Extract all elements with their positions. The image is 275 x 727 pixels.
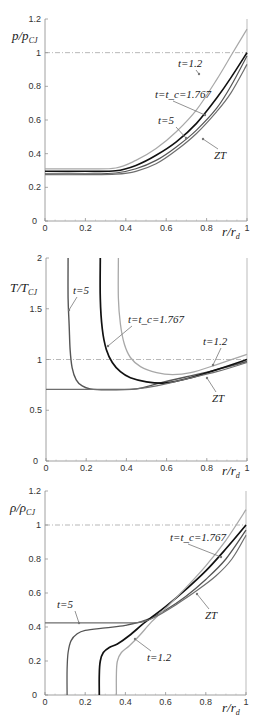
- annotation-label: t=5: [158, 114, 174, 126]
- arrow-head-icon: [185, 137, 187, 139]
- annotation-arrow: [197, 594, 209, 609]
- y-tick-label: 1.5: [29, 304, 42, 314]
- y-tick-label: 1.2: [28, 486, 41, 496]
- annotation-label: t=t_c=1.767: [170, 531, 227, 543]
- x-tick-label: 0.4: [120, 463, 133, 473]
- arrow-head-icon: [220, 556, 222, 558]
- y-tick-label: 0.8: [28, 554, 41, 564]
- y-tick-label: 1: [36, 48, 41, 58]
- x-tick-label: 1: [244, 223, 249, 233]
- y-tick-label: 0.4: [28, 149, 41, 159]
- annotation-label: t=5: [73, 284, 89, 296]
- x-tick-label: 0.2: [79, 697, 92, 707]
- annotation-arrow: [188, 544, 221, 557]
- y-tick-label: 0.8: [28, 81, 41, 91]
- arrow-head-icon: [134, 638, 136, 640]
- annotation-arrow: [75, 611, 79, 623]
- x-tick-label: 0.6: [159, 697, 172, 707]
- annotation-label: ZT: [212, 392, 225, 404]
- temperature-chart: 00.20.40.60.8100.511.52t=5t=t_c=1.767t=1…: [29, 253, 249, 473]
- x-tick-label: 0.6: [160, 223, 173, 233]
- annotation-arrow: [173, 101, 205, 115]
- pressure-y-axis-label: p/pCJ: [11, 28, 38, 45]
- arrow-head-icon: [196, 593, 198, 595]
- annotation-arrow: [108, 326, 132, 346]
- annotation-label: t=5: [57, 598, 73, 610]
- y-tick-label: 0: [32, 216, 37, 226]
- y-tick-label: 0: [33, 456, 38, 466]
- arrow-head-icon: [68, 309, 70, 311]
- x-tick-label: 0: [43, 463, 48, 473]
- y-tick-label: 1: [36, 520, 41, 530]
- annotation-arrow: [69, 297, 77, 310]
- y-tick-label: 0.5: [29, 405, 42, 415]
- annotation-arrow: [203, 139, 218, 149]
- y-tick-label: 0.2: [28, 182, 41, 192]
- annotation-label: t=1.2: [178, 57, 203, 69]
- x-tick-label: 0.8: [200, 697, 213, 707]
- x-tick-label: 0: [42, 223, 47, 233]
- x-tick-label: 1: [243, 697, 248, 707]
- annotation-label: t=1.2: [147, 651, 172, 663]
- x-tick-label: 0.2: [80, 463, 93, 473]
- pressure-x-axis-label: r/rd: [222, 224, 241, 241]
- annotation-label: t=t_c=1.767: [155, 88, 212, 100]
- y-tick-label: 0.6: [28, 588, 41, 598]
- annotation-label: ZT: [205, 609, 218, 621]
- x-tick-label: 0.2: [79, 223, 92, 233]
- y-tick-label: 0.4: [28, 622, 41, 632]
- y-tick-label: 0.2: [28, 656, 41, 666]
- x-tick-label: 1: [244, 463, 249, 473]
- density-chart: 00.20.40.60.8100.20.40.60.811.2t=t_c=1.7…: [28, 486, 248, 707]
- y-tick-label: 0.6: [28, 115, 41, 125]
- annotation-arrow: [176, 127, 186, 138]
- density-x-axis-label: r/rd: [222, 700, 241, 717]
- annotation-arrow: [213, 348, 221, 365]
- y-tick-label: 1.2: [28, 14, 41, 24]
- x-tick-label: 0.8: [201, 463, 214, 473]
- arrow-head-icon: [206, 377, 208, 379]
- y-tick-label: 2: [37, 253, 42, 263]
- arrow-head-icon: [212, 364, 214, 366]
- annotation-arrow: [207, 378, 216, 392]
- arrow-head-icon: [198, 73, 200, 75]
- x-tick-label: 0: [42, 697, 47, 707]
- x-tick-label: 0.8: [200, 223, 213, 233]
- arrow-head-icon: [204, 114, 206, 116]
- x-tick-label: 0.4: [120, 223, 133, 233]
- temperature-x-axis-label: r/rd: [222, 463, 241, 480]
- figure: 00.20.40.60.8100.20.40.60.811.2t=1.2t=t_…: [0, 0, 275, 727]
- arrow-head-icon: [107, 345, 109, 347]
- arrow-head-icon: [78, 622, 80, 624]
- temperature-y-axis-label: T/TCJ: [10, 280, 37, 297]
- pressure-chart: 00.20.40.60.8100.20.40.60.811.2t=1.2t=t_…: [28, 14, 249, 233]
- density-y-axis-label: ρ/ρCJ: [9, 500, 35, 517]
- x-tick-label: 0.4: [119, 697, 132, 707]
- annotation-label: t=t_c=1.767: [128, 313, 185, 325]
- y-tick-label: 0: [32, 690, 37, 700]
- annotation-arrow: [135, 639, 151, 651]
- series-line: [46, 363, 247, 390]
- arrow-head-icon: [202, 138, 204, 140]
- series-line: [99, 525, 246, 695]
- y-tick-label: 1: [37, 355, 42, 365]
- x-tick-label: 0.6: [160, 463, 173, 473]
- annotation-label: ZT: [214, 149, 227, 161]
- annotation-label: t=1.2: [203, 335, 228, 347]
